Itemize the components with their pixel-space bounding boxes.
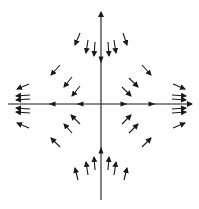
field-arrow-top: [123, 33, 127, 45]
arrowhead-icon: [99, 147, 104, 154]
field-arrow-right: [173, 123, 185, 128]
field-arrow-bottom-right: [122, 115, 131, 124]
arrowhead-icon: [77, 102, 84, 107]
field-arrow-left: [16, 95, 30, 96]
field-arrow-bottom-left: [64, 124, 72, 133]
field-arrow-right: [172, 108, 186, 109]
vector-field-diagram: [0, 0, 199, 209]
arrowhead-icon: [99, 57, 104, 64]
field-arrow-right: [172, 112, 186, 113]
field-arrow-bottom-right: [142, 138, 151, 147]
field-arrow-bottom-left: [71, 115, 80, 124]
field-arrow-left: [16, 112, 30, 113]
field-arrow-top: [114, 40, 116, 53]
field-arrow-bottom: [108, 157, 109, 170]
field-arrow-top-left: [72, 86, 80, 96]
field-arrow-top: [94, 42, 95, 56]
field-arrow-bottom: [124, 168, 127, 180]
field-arrow-top-left: [64, 77, 72, 87]
field-arrow-bottom-right: [129, 124, 138, 133]
field-arrow-top-right: [122, 87, 131, 96]
field-arrow-bottom: [75, 168, 78, 180]
field-arrow-top-right: [129, 78, 138, 87]
field-arrow-top-left: [51, 65, 60, 75]
field-arrow-top-right: [142, 65, 151, 75]
arrowhead-icon: [49, 102, 56, 107]
field-arrow-left: [17, 84, 29, 89]
field-arrow-left: [17, 123, 29, 128]
field-arrow-right: [173, 84, 185, 89]
axis-arrows: [49, 57, 156, 154]
field-arrow-left: [16, 108, 30, 109]
field-arrow-top: [108, 42, 109, 56]
field-arrow-right: [172, 95, 186, 96]
axes: [8, 12, 192, 200]
arrowhead-icon: [149, 102, 156, 107]
field-arrow-top: [75, 33, 80, 45]
field-arrow-left: [16, 99, 30, 100]
field-arrow-right: [172, 99, 186, 100]
field-arrow-bottom: [86, 162, 88, 175]
field-arrow-bottom: [94, 157, 95, 170]
field-arrow-bottom: [114, 162, 116, 175]
field-arrow-bottom-left: [51, 138, 60, 147]
field-arrow-top: [86, 40, 88, 53]
arrowhead-icon: [121, 102, 128, 107]
